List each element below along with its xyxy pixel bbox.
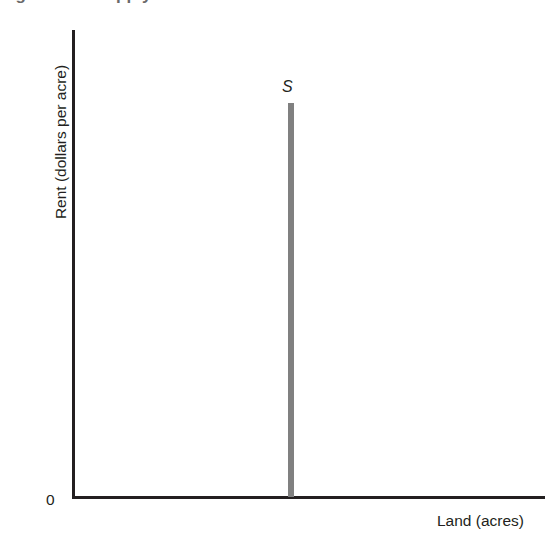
figure-container: Figure The Supply of Land Rent (dollars … bbox=[0, 0, 558, 545]
x-axis-line bbox=[72, 496, 545, 499]
supply-curve-label: S bbox=[282, 78, 293, 96]
y-axis-label: Rent (dollars per acre) bbox=[52, 32, 70, 252]
supply-curve-line bbox=[288, 103, 294, 497]
origin-label: 0 bbox=[46, 491, 55, 509]
y-axis-line bbox=[72, 30, 75, 499]
figure-title: Figure The Supply of Land bbox=[0, 0, 558, 5]
x-axis-label: Land (acres) bbox=[437, 512, 524, 530]
